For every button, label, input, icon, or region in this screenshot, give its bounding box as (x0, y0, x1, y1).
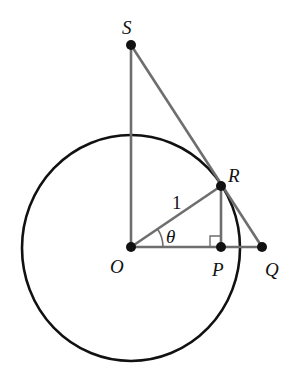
label-S: S (122, 17, 132, 38)
point-R (216, 181, 226, 191)
point-Q (257, 242, 267, 252)
label-radius-1: 1 (172, 192, 182, 213)
label-theta: θ (166, 226, 175, 247)
label-O: O (110, 256, 124, 277)
point-S (126, 40, 136, 50)
unit-circle-diagram: S R O P Q 1 θ (0, 0, 305, 383)
label-R: R (227, 165, 240, 186)
angle-arc-theta (158, 229, 164, 247)
segment-SQ (131, 45, 262, 247)
label-Q: Q (265, 259, 279, 280)
label-P: P (211, 259, 224, 280)
point-O (126, 242, 136, 252)
point-P (216, 242, 226, 252)
